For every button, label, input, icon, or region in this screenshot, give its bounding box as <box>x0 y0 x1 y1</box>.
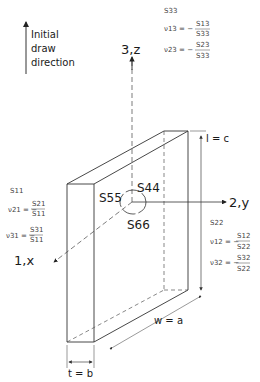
svg-text:ν23 = −: ν23 = − <box>164 46 193 54</box>
svg-text:ν32 = −: ν32 = − <box>210 259 239 267</box>
svg-text:ν12 = −: ν12 = − <box>210 238 239 246</box>
svg-text:S11: S11 <box>32 210 45 218</box>
svg-text:S33: S33 <box>196 52 209 60</box>
plate-box <box>67 131 188 342</box>
axis2-properties: S22 ν12 = − S12 S22 ν32 = − S32 S22 <box>210 219 250 273</box>
axis-z-label: 3,z <box>121 42 140 57</box>
svg-text:S12: S12 <box>237 232 250 240</box>
svg-text:S22: S22 <box>210 219 223 227</box>
draw-direction-label-3: direction <box>31 57 75 68</box>
axis-x <box>54 202 132 262</box>
axis3-properties: S33 ν13 = − S13 S33 ν23 = − S23 S33 <box>164 7 210 60</box>
svg-text:ν13 = −: ν13 = − <box>164 25 193 33</box>
axis-y-label: 2,y <box>229 195 249 210</box>
draw-direction-label-1: Initial <box>31 29 59 40</box>
s66-label: S66 <box>127 218 150 232</box>
draw-direction-label-2: draw <box>31 43 56 54</box>
svg-text:S33: S33 <box>196 30 209 38</box>
dimension-length <box>190 131 206 290</box>
svg-text:S22: S22 <box>237 243 250 251</box>
width-label: w = a <box>154 315 183 326</box>
plate-hidden-edges <box>67 131 188 342</box>
orthotropic-plate-diagram: Initial draw direction 3,z 2,y 1,x S44 S… <box>0 0 260 382</box>
svg-text:S32: S32 <box>237 254 250 262</box>
axis1-properties: S11 ν21 = − S21 S11 ν31 = − S31 S11 <box>6 187 45 244</box>
axis-x-label: 1,x <box>14 253 34 268</box>
svg-text:S31: S31 <box>30 226 43 234</box>
svg-text:S21: S21 <box>32 200 45 208</box>
dimension-thickness <box>67 345 94 368</box>
svg-text:S13: S13 <box>196 20 209 28</box>
s44-label: S44 <box>137 181 160 195</box>
thickness-label: t = b <box>68 368 93 379</box>
svg-text:S23: S23 <box>196 41 209 49</box>
length-label: l = c <box>206 133 229 144</box>
svg-text:S33: S33 <box>164 7 177 15</box>
svg-text:S11: S11 <box>30 236 43 244</box>
svg-text:S11: S11 <box>10 187 23 195</box>
s55-label: S55 <box>99 191 122 205</box>
svg-text:S22: S22 <box>237 265 250 273</box>
